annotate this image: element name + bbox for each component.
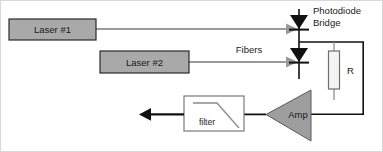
block-diagram-canvas: Laser #1 Laser #2 Fibers Photodiode bbox=[1, 1, 383, 152]
filter-block[interactable]: filter bbox=[184, 96, 244, 131]
photodiode-bridge bbox=[289, 9, 309, 79]
laser1-block[interactable]: Laser #1 bbox=[9, 19, 96, 40]
diagram-figure: Laser #1 Laser #2 Fibers Photodiode bbox=[0, 0, 383, 152]
arrow-left-icon bbox=[139, 108, 151, 121]
amp-label: Amp bbox=[288, 109, 308, 120]
photodiode-bridge-label-line2: Bridge bbox=[313, 17, 340, 28]
filter-label: filter bbox=[199, 117, 215, 127]
output-signal-arrow bbox=[139, 108, 184, 121]
laser1-label: Laser #1 bbox=[34, 24, 71, 35]
amp-block[interactable]: Amp bbox=[266, 90, 311, 141]
resistor-label: R bbox=[347, 65, 354, 76]
fibers-label: Fibers bbox=[236, 44, 263, 55]
laser2-label: Laser #2 bbox=[126, 57, 163, 68]
photodiode-bridge-label-line1: Photodiode bbox=[313, 5, 361, 16]
resistor-body[interactable] bbox=[329, 51, 340, 89]
laser2-block[interactable]: Laser #2 bbox=[100, 51, 189, 73]
resistor-block[interactable]: R bbox=[329, 51, 355, 89]
fiber-path-laser2 bbox=[189, 57, 298, 68]
fiber-path-laser1 bbox=[96, 24, 298, 35]
